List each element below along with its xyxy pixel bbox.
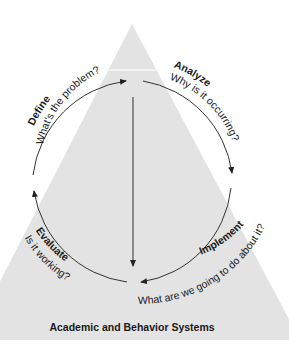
triangle-shape [0,24,289,340]
problem-solving-diagram: Define What's the problem? Analyze Why i… [0,0,289,356]
diagram-caption: Academic and Behavior Systems [49,321,214,333]
